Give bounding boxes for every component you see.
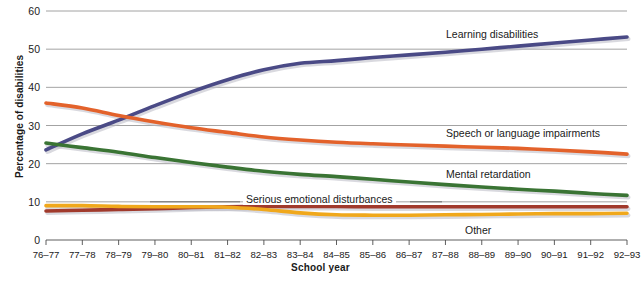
x-tick-label: 83–84	[287, 249, 314, 260]
series-label-other: Other	[462, 224, 494, 236]
x-tick-label: 91–92	[577, 249, 604, 260]
x-tick-label: 88–89	[468, 249, 495, 260]
x-tick-label: 84–85	[323, 249, 350, 260]
series-label-serious-emotional-disturbances: Serious emotional disturbances	[243, 193, 396, 205]
x-tick-label: 87–88	[432, 249, 459, 260]
plot-area	[0, 0, 641, 283]
x-tick-label: 92–93	[614, 249, 641, 260]
x-tick-label: 76–77	[33, 249, 60, 260]
x-tick-label: 89–90	[505, 249, 532, 260]
series-label-mental-retardation: Mental retardation	[443, 168, 534, 180]
series-label-speech-or-language-impairments: Speech or language impairments	[443, 127, 603, 139]
x-tick-label: 78–79	[105, 249, 132, 260]
x-tick-label: 81–82	[214, 249, 241, 260]
x-tick-label: 82–83	[251, 249, 278, 260]
x-axis-title: School year	[0, 262, 641, 273]
x-tick-label: 86–87	[396, 249, 423, 260]
x-tick-label: 80–81	[178, 249, 205, 260]
x-tick-label: 85–86	[359, 249, 386, 260]
x-tick-label: 90–91	[541, 249, 568, 260]
series-label-learning-disabilities: Learning disabilities	[443, 28, 541, 40]
line-chart: Percentage of disabilities 0102030405060…	[0, 0, 641, 283]
x-axis-tick-labels: 76–7777–7878–7979–8080–8181–8282–8383–84…	[0, 243, 641, 261]
x-tick-label: 79–80	[142, 249, 169, 260]
x-tick-label: 77–78	[69, 249, 96, 260]
